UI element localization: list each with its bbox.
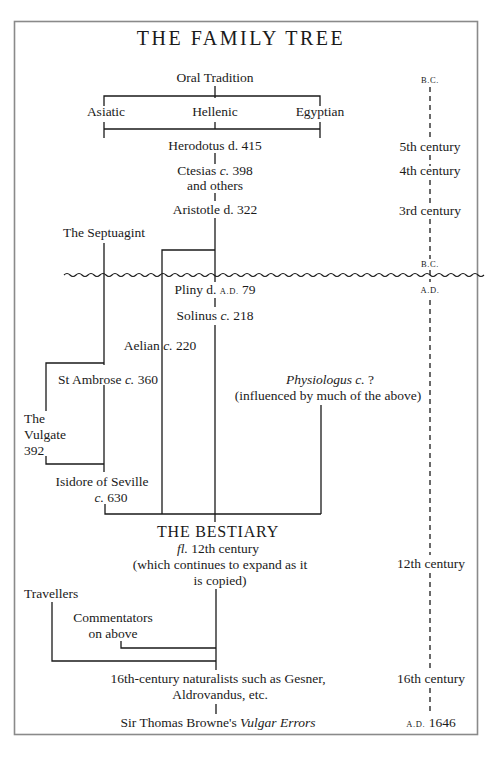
- diagram-title: THE FAMILY TREE: [137, 27, 345, 49]
- node-ctesias: Ctesias c. 398: [177, 163, 253, 178]
- timeline-ad-divider: A.D.: [421, 285, 440, 295]
- node-asiatic: Asiatic: [87, 104, 125, 119]
- connector-culture-bracket: [104, 122, 320, 138]
- node-isidore-date: c. 630: [95, 490, 128, 505]
- node-aristotle: Aristotle d. 322: [173, 202, 257, 217]
- node-vulgate-date: 392: [24, 443, 44, 458]
- connector-vulgate-isidore: [46, 456, 104, 464]
- node-bestiary-note-2: is copied): [194, 573, 247, 588]
- connector-bestiary-join: [105, 504, 321, 514]
- timeline-bc-divider: B.C.: [421, 259, 439, 269]
- node-isidore: Isidore of Seville: [56, 474, 149, 489]
- connector-oral-bracket: [104, 86, 320, 106]
- node-bestiary-title: THE BESTIARY: [157, 523, 279, 540]
- node-egyptian: Egyptian: [296, 104, 345, 119]
- node-ctesias-others: and others: [187, 178, 243, 193]
- node-bestiary-date: fl. 12th century: [177, 541, 259, 556]
- node-vulgate-name: Vulgate: [24, 427, 66, 442]
- node-vulgate-the: The: [24, 411, 45, 426]
- family-tree-diagram: THE FAMILY TREE Oral Tradition Asiatic H…: [0, 0, 494, 761]
- node-oral-tradition: Oral Tradition: [177, 70, 254, 85]
- timeline-3rd-century: 3rd century: [399, 203, 461, 218]
- timeline-end-date: A.D. 1646: [406, 715, 456, 730]
- node-bestiary-note-1: (which continues to expand as it: [133, 557, 308, 572]
- node-travellers: Travellers: [24, 586, 78, 601]
- node-aelian: Aelian c. 220: [124, 338, 197, 353]
- node-septuagint: The Septuagint: [63, 225, 145, 240]
- node-naturalists: 16th-century naturalists such as Gesner,: [110, 671, 325, 686]
- node-herodotus: Herodotus d. 415: [168, 138, 262, 153]
- node-physiologus: Physiologus c. ?: [285, 372, 374, 387]
- node-commentators: Commentators: [73, 610, 153, 625]
- node-st-ambrose: St Ambrose c. 360: [58, 372, 158, 387]
- node-pliny: Pliny d. A.D. 79: [174, 282, 255, 297]
- connector-commentators: [121, 641, 216, 648]
- node-physiologus-note: (influenced by much of the above): [235, 388, 421, 403]
- bc-ad-divider-wave: [64, 274, 484, 277]
- connector-septuagint-vulgate: [46, 363, 104, 411]
- timeline-5th-century: 5th century: [399, 139, 460, 154]
- node-commentators-note: on above: [88, 626, 137, 641]
- node-solinus: Solinus c. 218: [177, 308, 254, 323]
- timeline-4th-century: 4th century: [399, 163, 460, 178]
- timeline-12th-century: 12th century: [397, 556, 465, 571]
- node-browne: Sir Thomas Browne's Vulgar Errors: [121, 715, 316, 730]
- node-naturalists-names: Aldrovandus, etc.: [172, 687, 268, 702]
- timeline-bc-top: B.C.: [421, 75, 439, 85]
- node-hellenic: Hellenic: [192, 104, 238, 119]
- timeline-16th-century: 16th century: [397, 671, 465, 686]
